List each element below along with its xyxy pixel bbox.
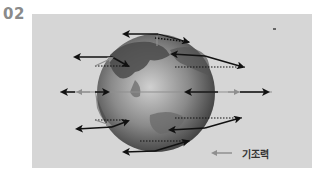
tidal-force-diagram xyxy=(0,0,328,177)
legend: 기조력 xyxy=(242,146,269,161)
small-mark xyxy=(273,28,276,30)
legend-label: 기조력 xyxy=(242,146,269,161)
earth-globe-icon xyxy=(95,34,215,152)
